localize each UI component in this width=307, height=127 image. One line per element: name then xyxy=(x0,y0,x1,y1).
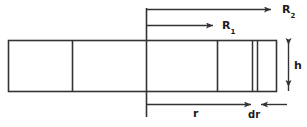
slab-outline xyxy=(9,41,277,92)
label-r1-subscript: 1 xyxy=(230,28,235,36)
label-r2: R2 xyxy=(282,4,295,18)
label-r1: R1 xyxy=(222,20,235,34)
diagram-vector-layer xyxy=(0,0,307,127)
label-r: r xyxy=(193,108,198,119)
engineering-diagram-canvas: R2 R1 h r dr xyxy=(0,0,307,127)
label-r2-subscript: 2 xyxy=(290,12,295,20)
label-h: h xyxy=(294,60,302,71)
label-dr: dr xyxy=(248,110,260,120)
